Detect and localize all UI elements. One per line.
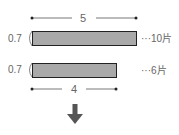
down-arrow-icon <box>67 104 83 124</box>
bar1 <box>32 31 137 46</box>
bar2 <box>32 63 117 78</box>
bar1-height-label: 0.7 <box>8 34 22 44</box>
bar2-height-label: 0.7 <box>8 65 22 75</box>
bottom-dimension-label: 4 <box>71 84 77 94</box>
bar2-count-label: ···6片 <box>141 66 167 76</box>
bar1-count-label: ···10片 <box>141 34 172 44</box>
top-dimension-label: 5 <box>80 13 86 23</box>
